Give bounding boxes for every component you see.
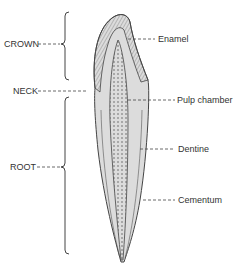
label-pulp-chamber: Pulp chamber <box>177 95 233 105</box>
label-neck: NECK <box>13 86 38 96</box>
label-dentine: Dentine <box>178 144 209 154</box>
label-enamel: Enamel <box>158 34 189 44</box>
label-root: ROOT <box>10 162 36 172</box>
label-crown: CROWN <box>4 39 39 49</box>
crown-brace <box>61 12 69 80</box>
root-brace <box>61 97 69 254</box>
label-cementum: Cementum <box>178 195 222 205</box>
